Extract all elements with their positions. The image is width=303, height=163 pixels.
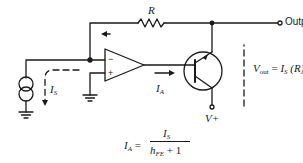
supply-terminal <box>210 105 214 109</box>
ground-icon <box>83 95 97 101</box>
output-terminal <box>278 21 282 25</box>
ia-equation-lhs: IA = <box>124 140 141 153</box>
circuit-diagram: R Output − + IS IA V+ Vout = IS (R) IA =… <box>0 0 303 163</box>
supply-label: V+ <box>205 113 219 124</box>
amp-current-label: IA <box>156 83 164 96</box>
input-wire <box>26 60 105 78</box>
noninverting-wire <box>90 73 105 95</box>
noninverting-input-label: + <box>108 69 113 78</box>
fraction-bar <box>150 141 190 142</box>
source-current-label: IS <box>50 84 57 97</box>
arrow-down-icon <box>42 100 48 106</box>
npn-transistor-symbol <box>184 52 222 106</box>
input-junction <box>88 58 92 62</box>
resistor-label: R <box>148 5 155 16</box>
resistor-r <box>138 19 164 27</box>
ia-equation-fraction: IS hFE + 1 <box>150 127 190 161</box>
vout-equation: Vout = IS (R) <box>253 63 303 76</box>
arrow-left-icon <box>101 31 107 37</box>
current-flow-path <box>45 34 244 106</box>
arrow-right-icon <box>169 70 175 76</box>
inverting-input-label: − <box>108 55 113 64</box>
current-source-symbol <box>19 77 33 112</box>
fraction-denominator: hFE + 1 <box>150 144 181 158</box>
fraction-numerator: IS <box>163 127 170 141</box>
ground-icon <box>19 112 33 118</box>
output-label: Output <box>285 17 303 27</box>
